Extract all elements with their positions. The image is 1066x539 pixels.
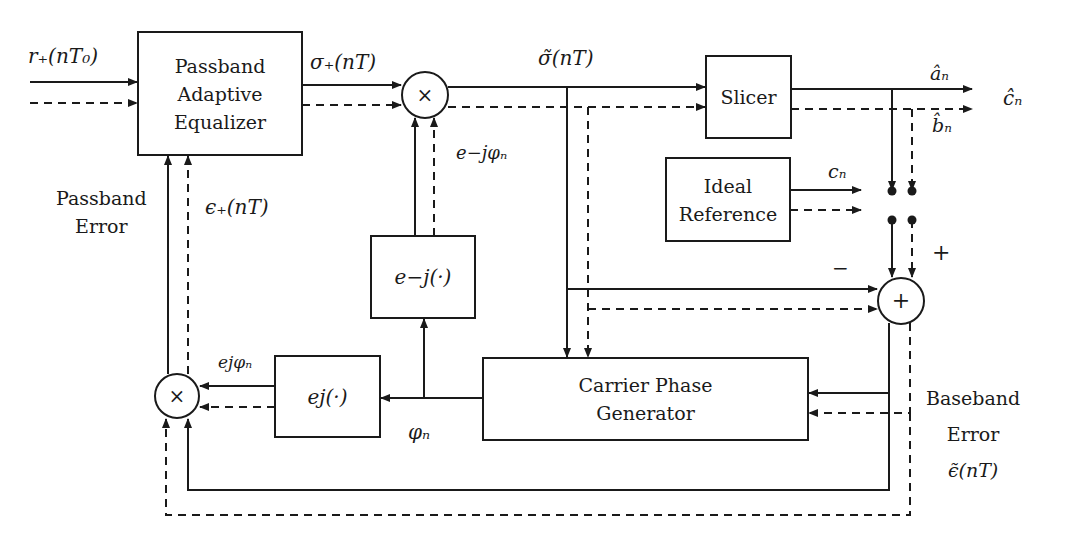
top-multiplier-symbol: × xyxy=(402,72,448,118)
plus-sign: + xyxy=(932,240,950,265)
a-hat-label: âₙ xyxy=(930,62,949,84)
rotated-signal-label: σ̃(nT) xyxy=(538,46,593,70)
eq-output-label: σ₊(nT) xyxy=(310,50,376,74)
c-hat-label: ĉₙ xyxy=(1003,86,1022,110)
equalizer-line-2: Adaptive xyxy=(177,80,262,108)
ideal-reference-line-2: Reference xyxy=(679,200,777,228)
baseband-error-label: Baseband Error ϵ̃(nT) xyxy=(926,380,1020,488)
cpg-line-2: Generator xyxy=(596,399,694,427)
passband-error-line-1: Passband xyxy=(56,184,147,212)
passband-error-symbol: ϵ₊(nT) xyxy=(205,195,269,219)
ideal-reference-label: Ideal Reference xyxy=(666,158,790,241)
input-signal-label: r₊(nT₀) xyxy=(28,44,98,68)
exp-neg-text: e−j(·) xyxy=(395,263,452,291)
ideal-reference-line-1: Ideal xyxy=(704,172,752,200)
plus-symbol: + xyxy=(892,287,910,315)
passband-error-label: Passband Error xyxy=(56,184,147,240)
equalizer-line-3: Equalizer xyxy=(174,108,266,136)
cpg-line-1: Carrier Phase xyxy=(579,371,713,399)
passband-error-line-2: Error xyxy=(56,212,147,240)
left-multiplier-symbol: × xyxy=(155,374,199,418)
minus-sign: − xyxy=(832,256,849,280)
exp-neg-label: e−j(·) xyxy=(371,236,475,318)
slicer-text: Slicer xyxy=(720,83,776,111)
exp-pos-label: ej(·) xyxy=(275,356,380,437)
times-symbol: × xyxy=(417,81,434,109)
equalizer-label: Passband Adaptive Equalizer xyxy=(138,32,302,155)
summer-symbol: + xyxy=(878,278,924,324)
times-symbol: × xyxy=(169,382,186,410)
baseband-error-symbol: ϵ̃(nT) xyxy=(926,452,1020,488)
c-n-label: cₙ xyxy=(828,160,846,182)
slicer-label: Slicer xyxy=(706,56,791,138)
baseband-error-line-1: Baseband xyxy=(926,380,1020,416)
carrier-phase-generator-label: Carrier Phase Generator xyxy=(483,358,808,440)
pos-phase-label: ejφₙ xyxy=(218,352,252,372)
phi-n-label: φₙ xyxy=(408,420,430,444)
exp-pos-text: ej(·) xyxy=(308,383,348,411)
baseband-error-line-2: Error xyxy=(926,416,1020,452)
equalizer-line-1: Passband xyxy=(175,52,266,80)
neg-phase-label: e−jφₙ xyxy=(456,142,507,163)
b-hat-label: b̂ₙ xyxy=(932,114,952,136)
